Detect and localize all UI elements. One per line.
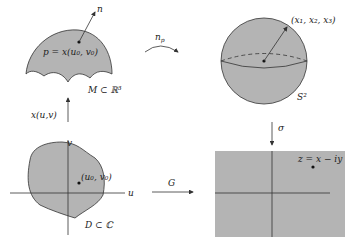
curved-arrow: [145, 46, 178, 52]
surface-point-label: p = x(u₀, v₀): [43, 47, 98, 57]
stereo-label: σ: [278, 123, 285, 133]
domain-point-label: (u₀, v₀): [81, 172, 112, 182]
u-axis-label: u: [128, 188, 134, 198]
diagram-canvas: n p = x(u₀, v₀) M ⊂ ℝ³ np (x₁, x₂, x₃) S…: [0, 0, 353, 243]
param-arrow: x(u,v): [31, 98, 68, 122]
sphere-name-label: S²: [297, 92, 307, 102]
domain-d: u v (u₀, v₀) D ⊂ ℂ: [10, 138, 134, 235]
gauss-map-label: np: [155, 32, 165, 44]
plane-point: [311, 165, 314, 168]
composite-label: G: [168, 178, 175, 188]
gauss-map-arrow: np: [145, 32, 178, 52]
normal-label: n: [97, 4, 103, 14]
stereo-arrow: σ: [272, 122, 285, 145]
surface-name-label: M ⊂ ℝ³: [87, 85, 122, 95]
sphere-point-label: (x₁, x₂, x₃): [291, 15, 336, 25]
param-label: x(u,v): [31, 110, 57, 120]
complex-plane: z = x − iy: [215, 151, 345, 237]
v-axis-label: v: [67, 138, 72, 148]
sphere-s2: (x₁, x₂, x₃) S²: [221, 15, 336, 104]
domain-name-label: D ⊂ ℂ: [84, 220, 114, 230]
composite-arrow: G: [152, 178, 193, 192]
plane-point-label: z = x − iy: [297, 154, 343, 164]
surface-m: n p = x(u₀, v₀) M ⊂ ℝ³: [26, 4, 122, 95]
